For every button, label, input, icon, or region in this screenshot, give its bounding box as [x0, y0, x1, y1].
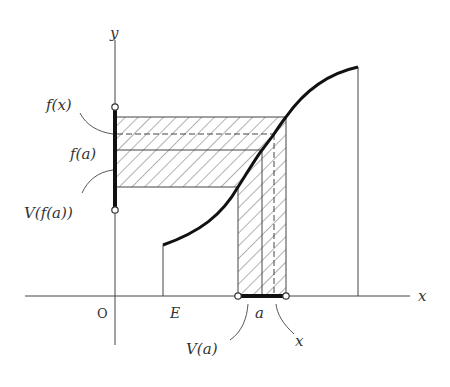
- v-a-label: V(a): [186, 340, 218, 358]
- v-fa-label: V(f(a)): [24, 204, 73, 222]
- diagram-svg: y x O E a x V(a) f(x) f(a) V(f(a)): [0, 0, 450, 387]
- origin-label: O: [97, 306, 108, 321]
- continuity-diagram: y x O E a x V(a) f(x) f(a) V(f(a)): [0, 0, 450, 387]
- y-axis-label: y: [109, 24, 119, 42]
- x-axis-label: x: [418, 287, 427, 305]
- a-label: a: [255, 304, 264, 322]
- v-fa-bottom-endpoint: [112, 207, 118, 213]
- v-fa-top-endpoint: [112, 104, 118, 110]
- f-x-label: f(x): [45, 96, 72, 114]
- v-a-left-endpoint: [235, 293, 241, 299]
- x-point-leader: [276, 304, 294, 334]
- f-a-label: f(a): [69, 145, 96, 163]
- fx-leader: [80, 113, 113, 134]
- domain-label: E: [169, 305, 180, 321]
- v-a-right-endpoint: [283, 293, 289, 299]
- va-leader: [230, 304, 248, 340]
- x-point-label: x: [295, 332, 304, 350]
- vfa-leader: [82, 170, 113, 193]
